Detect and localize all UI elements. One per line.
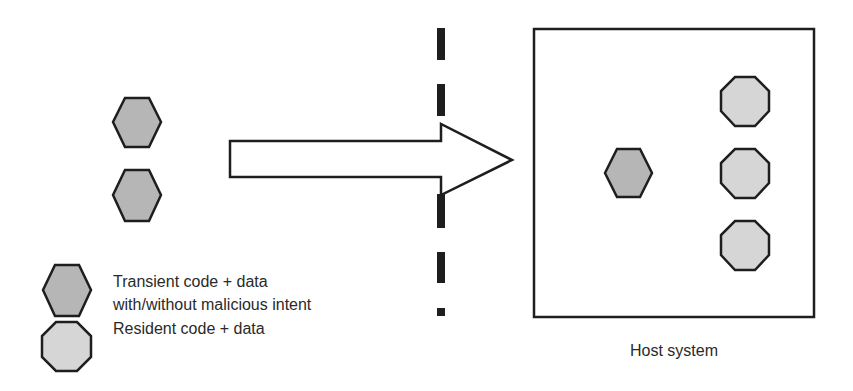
resident-octagon-icon: [721, 221, 769, 270]
transient-hexagon-icon: [113, 170, 161, 221]
outside-transient-group: [113, 98, 161, 221]
resident-octagon-icon: [721, 149, 769, 198]
transfer-arrow-icon: [230, 124, 512, 195]
boundary-dash: [437, 84, 445, 116]
legend: Transient code + data with/without malic…: [42, 265, 312, 371]
transient-hexagon-icon: [605, 149, 652, 197]
diagram-canvas: Host system Transient code + data with/w…: [0, 0, 853, 391]
boundary-dash: [437, 308, 445, 316]
host-system-label: Host system: [630, 342, 718, 359]
resident-octagon-icon: [721, 77, 769, 126]
legend-transient-hexagon-icon: [43, 265, 91, 316]
legend-transient-label-line2: with/without malicious intent: [112, 296, 312, 313]
boundary-dash: [437, 194, 445, 228]
transient-hexagon-icon: [113, 98, 161, 147]
host-system: Host system: [534, 29, 814, 359]
boundary-dash: [437, 28, 445, 60]
legend-transient-label-line1: Transient code + data: [113, 273, 268, 290]
legend-resident-label: Resident code + data: [113, 320, 265, 337]
host-system-box: [534, 29, 814, 317]
boundary-dash: [437, 252, 445, 283]
legend-resident-octagon-icon: [42, 322, 91, 371]
